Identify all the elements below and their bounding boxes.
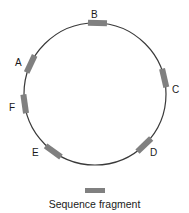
fragment-label-e: E <box>32 148 39 158</box>
fragment-marker-c <box>159 68 169 88</box>
fragment-label-b: B <box>91 10 98 20</box>
fragment-label-a: A <box>15 58 22 68</box>
fragment-label-c: C <box>172 85 179 95</box>
fragment-marker-group <box>20 20 169 160</box>
diagram-canvas <box>0 0 189 213</box>
fragment-label-f: F <box>9 103 15 113</box>
fragment-label-d: D <box>150 148 157 158</box>
fragment-marker-b <box>88 20 107 27</box>
legend-swatch-sequence-fragment <box>85 188 105 193</box>
circular-sequence-map-figure: A B C D E F Sequence fragment <box>0 0 189 213</box>
fragment-marker-f <box>20 94 29 114</box>
legend-caption: Sequence fragment <box>0 198 189 211</box>
fragment-marker-a <box>24 54 37 74</box>
fragment-marker-e <box>44 143 63 159</box>
